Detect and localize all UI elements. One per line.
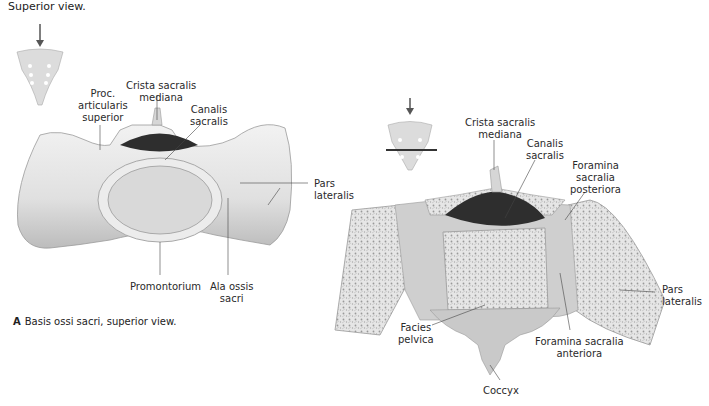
- label-pars-lateralis-b: Pars lateralis: [662, 284, 702, 308]
- label-foramina-posteriora: Foramina sacralia posteriora: [570, 160, 621, 196]
- label-facies-pelvica: Facies pelvica: [398, 322, 434, 346]
- corpus-section: [443, 228, 548, 310]
- label-line: superior: [78, 112, 128, 124]
- label-line: Crista sacralis: [465, 117, 535, 129]
- label-line: lateralis: [314, 190, 354, 202]
- label-coccyx: Coccyx: [483, 385, 519, 397]
- label-canalis-sacralis-b: Canalis sacralis: [526, 138, 564, 162]
- label-ala-ossis-sacri: Ala ossis sacri: [210, 281, 253, 305]
- label-line: Proc.: [78, 88, 128, 100]
- caption-letter: A: [13, 316, 21, 327]
- figure-caption: ABasis ossi sacri, superior view.: [13, 316, 176, 327]
- panel-a-basis-ossi-sacri: [17, 108, 291, 248]
- label-line: Canalis: [190, 104, 228, 116]
- label-line: Foramina: [570, 160, 621, 172]
- label-line: lateralis: [662, 296, 702, 308]
- view-arrow-icon: [36, 40, 44, 47]
- label-line: Pars: [314, 178, 354, 190]
- label-foramina-anteriora: Foramina sacralia anteriora: [535, 336, 624, 360]
- label-line: mediana: [465, 129, 535, 141]
- label-line: Pars: [662, 284, 702, 296]
- label-line: Foramina sacralia: [535, 336, 624, 348]
- label-line: pelvica: [398, 334, 434, 346]
- thumbnail-sacrum-b: [386, 98, 437, 170]
- label-line: mediana: [126, 92, 196, 104]
- label-crista-sacralis-b: Crista sacralis mediana: [465, 117, 535, 141]
- label-line: articularis: [78, 100, 128, 112]
- label-line: sacri: [210, 293, 253, 305]
- label-line: sacralis: [190, 116, 228, 128]
- label-pars-lateralis-a: Pars lateralis: [314, 178, 354, 202]
- label-line: Facies: [398, 322, 434, 334]
- label-line: sacralia: [570, 172, 621, 184]
- label-line: anteriora: [535, 348, 624, 360]
- label-line: Ala ossis: [210, 281, 253, 293]
- label-line: sacralis: [526, 150, 564, 162]
- pars-lateralis-right-section: [568, 200, 665, 345]
- label-line: Canalis: [526, 138, 564, 150]
- label-crista-sacralis-a: Crista sacralis mediana: [126, 80, 196, 104]
- label-proc-articularis: Proc. articularis superior: [78, 88, 128, 124]
- label-canalis-sacralis-a: Canalis sacralis: [190, 104, 228, 128]
- label-promontorium: Promontorium: [130, 281, 201, 293]
- label-line: Crista sacralis: [126, 80, 196, 92]
- promontorium-surface: [108, 166, 212, 234]
- caption-text: Basis ossi sacri, superior view.: [25, 316, 177, 327]
- thumbnail-sacrum-a: [17, 24, 63, 105]
- view-arrow-icon: [406, 108, 414, 115]
- label-line: posteriora: [570, 184, 621, 196]
